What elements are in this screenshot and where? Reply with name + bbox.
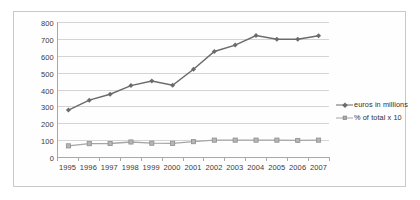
x-axis-tick-label: 1999	[143, 163, 160, 172]
x-axis-tick-label: 1997	[101, 163, 118, 172]
chart-legend: euros in millions % of total x 10	[336, 98, 406, 124]
plot-area: 0100200300400500600700800	[57, 22, 329, 157]
x-axis-tick-label: 2001	[184, 163, 201, 172]
data-point-marker	[275, 138, 279, 142]
series-line	[68, 36, 318, 111]
y-axis-tick-label: 400	[41, 86, 54, 95]
x-axis: 1995199619971998199920002001200220032004…	[57, 157, 329, 187]
y-axis-tick-label: 200	[41, 120, 54, 129]
x-axis-tick-label: 2006	[289, 163, 306, 172]
x-axis-tick-mark	[57, 157, 58, 161]
y-axis-tick-label: 100	[41, 137, 54, 146]
legend-item[interactable]: euros in millions	[336, 98, 406, 111]
data-point-marker	[128, 83, 133, 88]
data-point-marker	[108, 92, 113, 97]
data-point-marker	[316, 138, 320, 142]
data-point-marker	[295, 37, 300, 42]
x-axis-tick-mark	[78, 157, 79, 161]
y-axis-tick-label: 800	[41, 19, 54, 28]
x-axis-tick-mark	[329, 157, 330, 161]
data-point-marker	[108, 141, 112, 145]
x-axis-tick-mark	[162, 157, 163, 161]
x-axis-tick-mark	[245, 157, 246, 161]
x-axis-tick-label: 2003	[226, 163, 243, 172]
series-layer	[58, 22, 329, 157]
data-point-marker	[129, 140, 133, 144]
data-point-marker	[254, 138, 258, 142]
x-axis-tick-mark	[266, 157, 267, 161]
x-axis-tick-mark	[224, 157, 225, 161]
x-axis-tick-mark	[120, 157, 121, 161]
x-axis-tick-mark	[308, 157, 309, 161]
x-axis-tick-mark	[141, 157, 142, 161]
x-axis-tick-label: 2000	[164, 163, 181, 172]
data-point-marker	[233, 138, 237, 142]
x-axis-tick-mark	[203, 157, 204, 161]
x-axis-tick-mark	[287, 157, 288, 161]
x-axis-tick-label: 1996	[80, 163, 97, 172]
legend-marker-square-icon	[336, 113, 353, 122]
y-axis-tick-label: 300	[41, 103, 54, 112]
legend-marker-diamond-icon	[336, 100, 353, 109]
chart-frame: 0100200300400500600700800 19951996199719…	[13, 11, 406, 187]
x-axis-tick-label: 2002	[205, 163, 222, 172]
x-axis-tick-label: 2005	[268, 163, 285, 172]
y-axis-tick-label: 600	[41, 52, 54, 61]
data-point-marker	[212, 138, 216, 142]
data-point-marker	[254, 33, 259, 38]
x-axis-tick-label: 1998	[122, 163, 139, 172]
data-point-marker	[233, 43, 238, 48]
legend-item-label: euros in millions	[354, 100, 408, 109]
data-point-marker	[274, 37, 279, 42]
data-point-marker	[171, 141, 175, 145]
data-point-marker	[191, 140, 195, 144]
x-axis-tick-label: 2004	[247, 163, 264, 172]
legend-item-label: % of total x 10	[354, 113, 402, 122]
data-point-marker	[150, 141, 154, 145]
x-axis-tick-label: 1995	[59, 163, 76, 172]
data-point-marker	[149, 79, 154, 84]
y-axis-tick-label: 500	[41, 69, 54, 78]
data-point-marker	[87, 142, 91, 146]
x-axis-tick-mark	[99, 157, 100, 161]
data-point-marker	[66, 108, 71, 113]
y-axis-tick-label: 700	[41, 35, 54, 44]
y-axis-tick-label: 0	[50, 154, 54, 163]
data-point-marker	[296, 138, 300, 142]
data-point-marker	[87, 98, 92, 103]
data-point-marker	[66, 144, 70, 148]
data-point-marker	[316, 33, 321, 38]
legend-item[interactable]: % of total x 10	[336, 111, 406, 124]
x-axis-tick-label: 2007	[310, 163, 327, 172]
x-axis-tick-mark	[183, 157, 184, 161]
